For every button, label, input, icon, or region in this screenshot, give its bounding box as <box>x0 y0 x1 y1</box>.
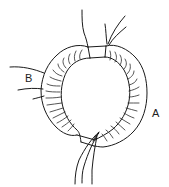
toroid-diagram <box>0 0 169 187</box>
top-leads <box>82 10 126 47</box>
toroid-core <box>77 46 106 146</box>
winding-b <box>10 45 90 142</box>
winding-a-label: A <box>152 108 159 119</box>
winding-a <box>94 45 147 147</box>
winding-b-label: B <box>25 73 32 84</box>
